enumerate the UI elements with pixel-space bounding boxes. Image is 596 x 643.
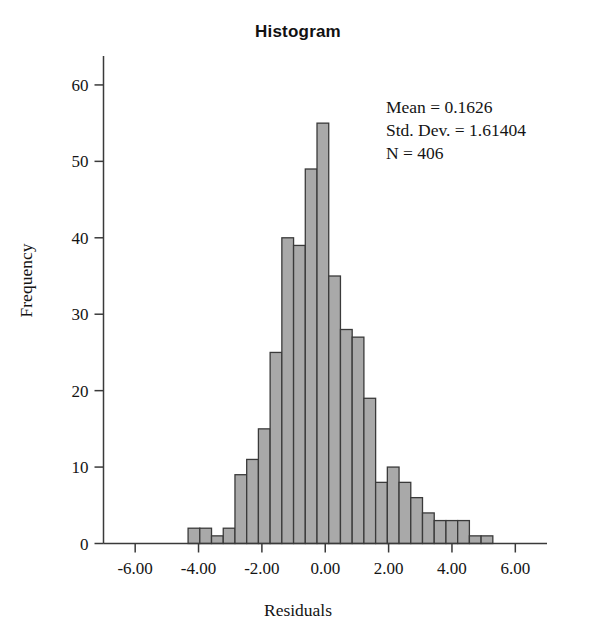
x-axis-tick-label: -6.00 bbox=[117, 559, 152, 578]
x-axis-tick-label: -2.00 bbox=[244, 559, 279, 578]
histogram-bar bbox=[282, 238, 294, 544]
histogram-bar bbox=[481, 536, 493, 544]
histogram-bar bbox=[469, 536, 481, 544]
y-axis-tick-label: 20 bbox=[72, 382, 89, 401]
histogram-bar bbox=[200, 528, 212, 543]
histogram-bar bbox=[258, 429, 270, 544]
histogram-bar bbox=[235, 475, 247, 544]
histogram-bar bbox=[329, 276, 341, 544]
histogram-bar bbox=[270, 352, 282, 543]
statistics-annotation: Mean = 0.1626 Std. Dev. = 1.61404 N = 40… bbox=[386, 96, 526, 165]
histogram-bar bbox=[212, 536, 224, 544]
histogram-bar bbox=[340, 330, 352, 544]
histogram-bar bbox=[458, 521, 470, 544]
y-axis-tick-label: 10 bbox=[72, 458, 89, 477]
x-axis-tick-label: 4.00 bbox=[437, 559, 467, 578]
histogram-bar bbox=[223, 528, 235, 543]
histogram-figure: Histogram 0102030405060-6.00-4.00-2.000.… bbox=[0, 0, 596, 643]
histogram-bar bbox=[305, 169, 317, 544]
y-axis-label: Frequency bbox=[16, 211, 37, 351]
histogram-bar bbox=[317, 123, 329, 543]
stat-std-dev: Std. Dev. = 1.61404 bbox=[386, 119, 526, 142]
histogram-bar bbox=[376, 482, 388, 543]
stat-n: N = 406 bbox=[386, 142, 526, 165]
x-axis-tick-label: 2.00 bbox=[374, 559, 404, 578]
histogram-bar bbox=[434, 521, 446, 544]
y-axis-tick-label: 40 bbox=[72, 229, 89, 248]
x-axis-tick-label: 6.00 bbox=[500, 559, 530, 578]
histogram-bar bbox=[399, 482, 411, 543]
histogram-bar bbox=[352, 337, 364, 543]
y-axis-tick-label: 50 bbox=[72, 152, 89, 171]
x-axis-tick-label: -4.00 bbox=[181, 559, 216, 578]
stat-mean: Mean = 0.1626 bbox=[386, 96, 526, 119]
y-axis-tick-label: 60 bbox=[72, 76, 89, 95]
histogram-bar bbox=[446, 521, 458, 544]
histogram-bar bbox=[188, 528, 200, 543]
x-axis-tick-label: 0.00 bbox=[310, 559, 340, 578]
y-axis-tick-label: 30 bbox=[72, 305, 89, 324]
histogram-bar bbox=[247, 459, 259, 543]
histogram-bar bbox=[294, 245, 306, 543]
histogram-bar bbox=[423, 513, 435, 544]
bars-group bbox=[188, 123, 493, 543]
histogram-bar bbox=[387, 467, 399, 543]
y-axis-tick-label: 0 bbox=[80, 535, 89, 554]
histogram-bar bbox=[411, 498, 423, 544]
x-axis-label: Residuals bbox=[0, 600, 596, 621]
histogram-bar bbox=[364, 398, 376, 543]
